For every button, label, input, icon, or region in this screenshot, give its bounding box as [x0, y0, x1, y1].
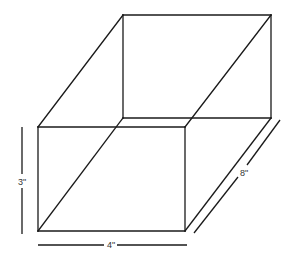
back-face: [123, 15, 271, 118]
depth-label: 8": [240, 168, 248, 178]
width-label: 4": [107, 240, 115, 250]
height-dimension: 3": [18, 127, 26, 234]
width-dimension: 4": [38, 240, 187, 250]
depth-dimension: 8": [194, 120, 280, 233]
top-right-depth-edge: [185, 15, 271, 127]
front-face: [38, 127, 185, 231]
bottom-right-depth-edge: [185, 118, 271, 231]
depth-dimension-line-lower: [194, 177, 238, 233]
top-left-depth-edge: [38, 15, 123, 127]
bottom-left-depth-edge: [38, 118, 123, 231]
prism-diagram: 3" 4" 8": [0, 0, 288, 262]
depth-edges: [38, 15, 271, 231]
height-label: 3": [18, 177, 26, 187]
